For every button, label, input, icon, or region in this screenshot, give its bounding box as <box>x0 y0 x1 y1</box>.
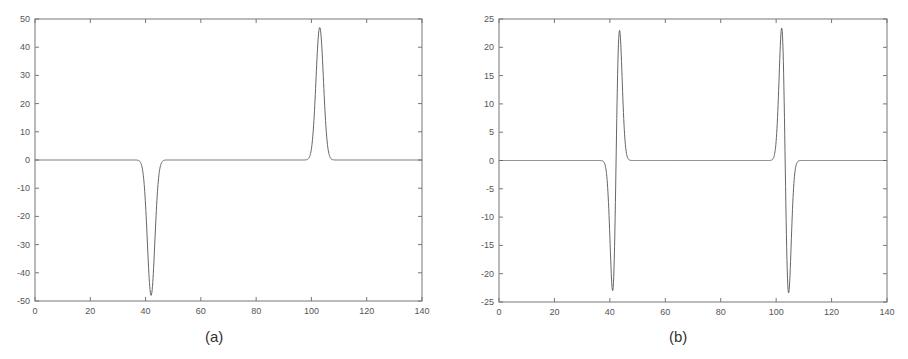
y-tick-label: 0 <box>489 156 494 166</box>
y-tick-label: 10 <box>20 127 30 137</box>
chart-b-plot: 0204060801001201402520151050-5-10-15-20-… <box>450 0 908 359</box>
y-tick-label: -10 <box>17 183 30 193</box>
x-tick-label: 140 <box>414 306 429 316</box>
y-tick-label: 50 <box>20 14 30 24</box>
chart-a-caption: (a) <box>205 328 223 345</box>
x-tick-label: 40 <box>605 307 615 317</box>
x-tick-label: 20 <box>85 306 95 316</box>
x-tick-label: 20 <box>549 307 559 317</box>
y-tick-label: 15 <box>484 71 494 81</box>
chart-panel-b: 0204060801001201402520151050-5-10-15-20-… <box>450 0 908 359</box>
x-tick-label: 60 <box>660 307 670 317</box>
x-tick-label: 100 <box>769 307 784 317</box>
chart-panel-a: 02040608010012014050403020100-10-20-30-4… <box>0 0 450 359</box>
series-line <box>35 27 422 295</box>
y-tick-label: 10 <box>484 99 494 109</box>
y-tick-label: -25 <box>481 297 494 307</box>
x-tick-label: 80 <box>251 306 261 316</box>
y-tick-label: -30 <box>17 240 30 250</box>
y-tick-label: -5 <box>486 184 494 194</box>
y-tick-label: -10 <box>481 212 494 222</box>
y-tick-label: 0 <box>25 155 30 165</box>
x-tick-label: 120 <box>824 307 839 317</box>
y-tick-label: -50 <box>17 296 30 306</box>
y-tick-label: 20 <box>484 42 494 52</box>
x-tick-label: 40 <box>141 306 151 316</box>
x-tick-label: 120 <box>359 306 374 316</box>
chart-b-caption: (b) <box>669 328 687 345</box>
series-line <box>499 28 887 293</box>
y-tick-label: -40 <box>17 268 30 278</box>
y-tick-label: 30 <box>20 70 30 80</box>
x-tick-label: 140 <box>879 307 894 317</box>
y-tick-label: 40 <box>20 42 30 52</box>
x-tick-label: 60 <box>196 306 206 316</box>
y-tick-label: 5 <box>489 127 494 137</box>
x-tick-label: 0 <box>32 306 37 316</box>
y-tick-label: 25 <box>484 14 494 24</box>
x-tick-label: 80 <box>716 307 726 317</box>
y-tick-label: -20 <box>481 269 494 279</box>
y-tick-label: -20 <box>17 211 30 221</box>
y-tick-label: -15 <box>481 240 494 250</box>
x-tick-label: 0 <box>496 307 501 317</box>
chart-a-plot: 02040608010012014050403020100-10-20-30-4… <box>0 0 450 359</box>
y-tick-label: 20 <box>20 99 30 109</box>
x-tick-label: 100 <box>304 306 319 316</box>
